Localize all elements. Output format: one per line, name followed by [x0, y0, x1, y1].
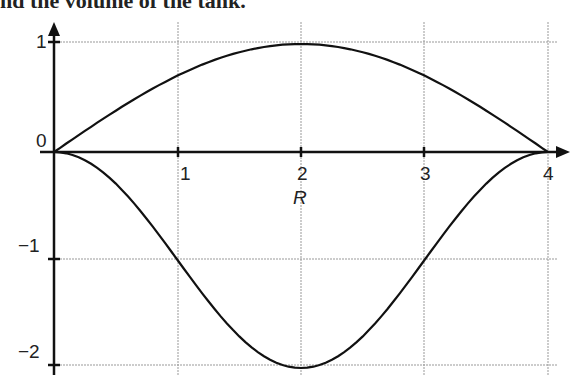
x-axis-label: R — [293, 187, 307, 208]
y-tick-neg1: −1 — [18, 235, 40, 256]
x-tick-2: 2 — [297, 163, 308, 184]
chart: 1 0 −1 −2 1 2 3 4 R — [0, 0, 576, 391]
y-tick-0: 0 — [36, 130, 47, 151]
x-tick-1: 1 — [180, 163, 191, 184]
y-tick-1: 1 — [36, 31, 47, 52]
x-tick-3: 3 — [420, 163, 431, 184]
x-axis-arrow-icon — [556, 146, 570, 158]
y-axis-arrow-icon — [48, 22, 60, 36]
y-tick-neg2: −2 — [18, 341, 40, 362]
x-tick-4: 4 — [543, 163, 554, 184]
